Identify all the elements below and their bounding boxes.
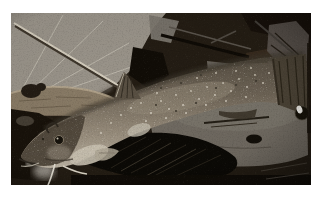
photo-art: Photograph of a catfish with pale whiske… [11, 13, 311, 185]
vignette [11, 13, 311, 185]
photo-description: catfish on leaf litter [0, 0, 1, 1]
photograph: Photograph of a catfish with pale whiske… [11, 13, 311, 185]
photo-frame: catfish on leaf litter Photograph of a c… [0, 0, 322, 199]
